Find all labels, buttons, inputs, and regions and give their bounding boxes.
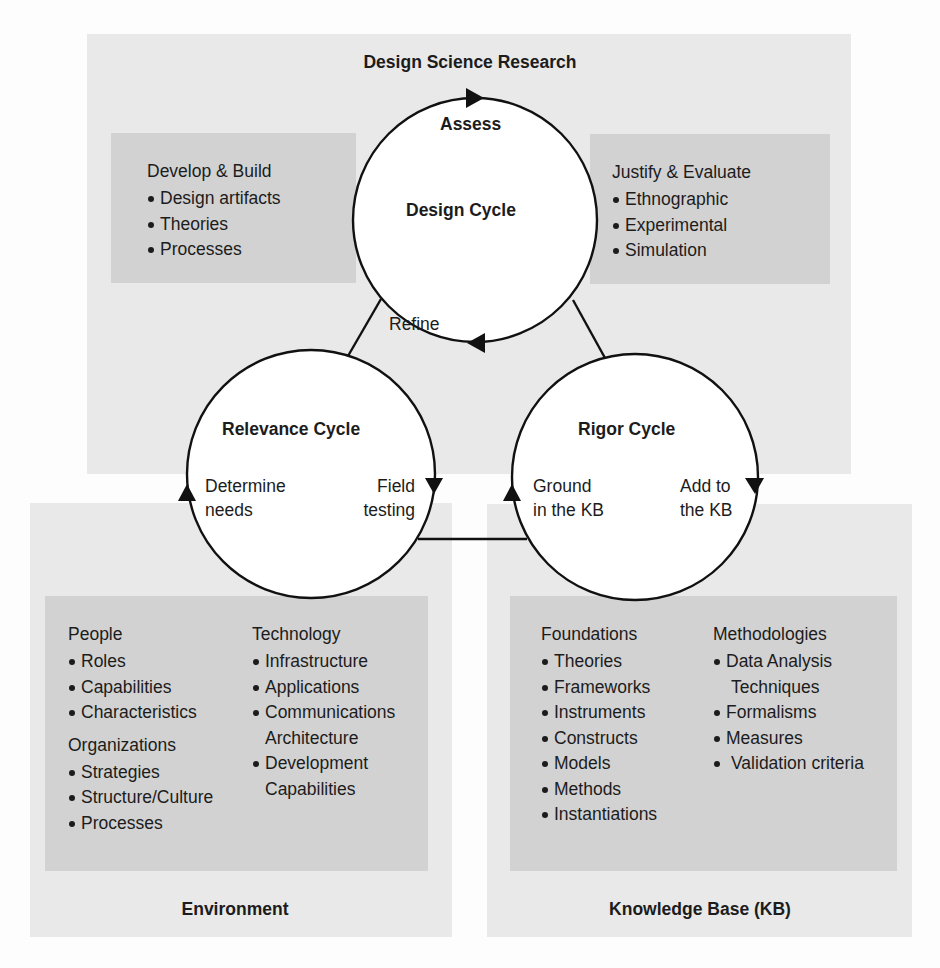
refine-label: Refine — [389, 312, 440, 336]
assess-label: Assess — [440, 112, 501, 136]
cycles-diagram — [0, 0, 940, 968]
add-to-kb-line2: the KB — [680, 498, 733, 522]
ground-kb-line2: in the KB — [533, 498, 604, 522]
rigor-cycle-title: Rigor Cycle — [578, 417, 675, 441]
add-to-kb-label: Add to the KB — [680, 474, 733, 522]
connector-design-rigor — [573, 300, 605, 358]
field-testing-line2: testing — [345, 498, 415, 522]
field-testing-line1: Field — [345, 474, 415, 498]
add-to-kb-line1: Add to — [680, 474, 733, 498]
determine-needs-line1: Determine — [205, 474, 286, 498]
determine-needs-line2: needs — [205, 498, 286, 522]
design-cycle-title: Design Cycle — [406, 198, 516, 222]
determine-needs-label: Determine needs — [205, 474, 286, 522]
ground-kb-label: Ground in the KB — [533, 474, 604, 522]
relevance-cycle-title: Relevance Cycle — [222, 417, 360, 441]
connector-design-relevance — [348, 299, 381, 356]
ground-kb-line1: Ground — [533, 474, 604, 498]
field-testing-label: Field testing — [345, 474, 415, 522]
